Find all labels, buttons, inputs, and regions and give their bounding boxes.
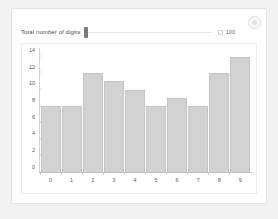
x-tick-label: 7 (188, 175, 209, 185)
control-bar: Total number of digits 100 (21, 23, 257, 41)
y-tick-label: 8 (32, 98, 35, 104)
x-tick-label: 5 (145, 175, 166, 185)
x-tick-mark (40, 173, 41, 175)
y-tick-label: 2 (32, 148, 35, 154)
bar (167, 98, 187, 172)
x-tick-label: 3 (103, 175, 124, 185)
bar-series (40, 50, 251, 172)
y-tick-label: 12 (29, 65, 35, 71)
x-tick-mark (124, 173, 125, 175)
x-axis: 0123456789 (40, 175, 251, 185)
bar (104, 81, 124, 172)
bar (83, 73, 103, 172)
x-tick-label: 4 (124, 175, 145, 185)
x-tick-label: 6 (167, 175, 188, 185)
y-tick-label: 10 (29, 82, 35, 88)
plot-area: 02468101214 0123456789 (22, 44, 256, 193)
bar (41, 106, 61, 172)
digits-slider[interactable] (84, 26, 212, 38)
bar (209, 73, 229, 172)
bar (146, 106, 166, 172)
x-tick-mark (229, 173, 230, 175)
x-tick-mark (187, 173, 188, 175)
y-tick-label: 14 (29, 48, 35, 54)
x-tick-mark (61, 173, 62, 175)
x-tick-label: 0 (40, 175, 61, 185)
slider-handle[interactable] (84, 27, 88, 38)
x-tick-mark (208, 173, 209, 175)
bar (230, 57, 250, 172)
panel-card: Total number of digits 100 02468101214 0… (11, 8, 267, 204)
app-root: Total number of digits 100 02468101214 0… (0, 0, 278, 219)
x-tick-mark (166, 173, 167, 175)
x-tick-label: 1 (61, 175, 82, 185)
x-tick-label: 9 (230, 175, 251, 185)
max-checkbox[interactable] (218, 30, 223, 35)
y-tick-label: 0 (32, 165, 35, 171)
plot-card: 02468101214 0123456789 (21, 43, 257, 194)
bar (62, 106, 82, 172)
x-tick-mark (103, 173, 104, 175)
slider-track[interactable] (84, 32, 212, 33)
bar (188, 106, 208, 172)
y-tick-label: 6 (32, 115, 35, 121)
max-group: 100 (218, 29, 235, 35)
x-tick-label: 2 (82, 175, 103, 185)
slider-label: Total number of digits (21, 29, 80, 35)
y-tick-label: 4 (32, 132, 35, 138)
x-tick-mark (145, 173, 146, 175)
max-value-label: 100 (226, 29, 235, 35)
x-tick-mark (82, 173, 83, 175)
y-axis: 02468101214 (24, 50, 37, 173)
x-tick-label: 8 (209, 175, 230, 185)
bar (125, 90, 145, 172)
